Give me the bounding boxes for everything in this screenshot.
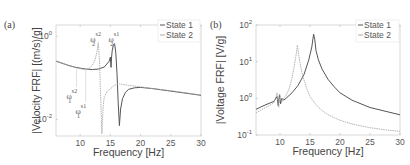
x-tick-label: 30 [395,137,405,147]
panel-a: 101520253010010-2 ωs22ωs12ωs21ωs11 (a) F… [4,19,206,158]
series-line-state-2-a [56,43,201,134]
x-tick-label: 25 [166,138,176,148]
x-tick-label: 10 [75,138,85,148]
legend-b: State 1State 2 [356,20,399,42]
y-tick-label: 101 [239,56,252,67]
legend-a: State 1State 2 [158,20,200,42]
figure: 101520253010010-2 ωs22ωs12ωs21ωs11 (a) F… [0,0,410,165]
x-tick-label: 30 [196,138,206,148]
panel-label-a: (a) [4,19,15,31]
legend-entry: State 1 [166,20,193,30]
mode-annotation: ωs22 [90,31,101,47]
legend-entry: State 2 [364,30,391,40]
panel-b: 101520253010210110010-1 (b) Frequency [H… [210,19,405,157]
mode-annotation: ωs11 [76,103,87,119]
x-axis-label-a: Frequency [Hz] [93,146,164,158]
x-tick-label: 10 [275,137,285,147]
y-tick-label: 10-1 [237,129,252,140]
mode-annotation: ωs21 [67,88,78,104]
y-axis-label-b: |Voltage FRF| [V/g] [214,36,226,124]
y-tick-label: 102 [239,19,252,30]
panel-label-b: (b) [210,19,222,31]
x-axis-label-b: Frequency [Hz] [292,145,363,157]
x-tick-label: 25 [365,137,375,147]
y-tick-label: 100 [239,92,252,103]
y-axis-label-a: |Velocity FRF| [(m/s)/g] [30,27,42,133]
series-line-state-2-b [256,45,400,131]
series-line-state-1-b [256,34,400,115]
legend-entry: State 2 [166,30,193,40]
legend-entry: State 1 [364,20,391,30]
